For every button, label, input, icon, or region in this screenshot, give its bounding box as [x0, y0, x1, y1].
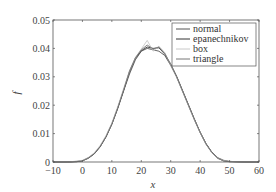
- y-tick-label: 0.04: [33, 43, 51, 54]
- x-tick-label: 40: [195, 165, 205, 176]
- x-tick-label: 30: [166, 165, 176, 176]
- x-tick-label: 20: [136, 165, 146, 176]
- y-tick-label: 0.01: [33, 128, 51, 139]
- y-tick-label: 0.03: [33, 71, 51, 82]
- y-tick-label: 0.05: [33, 15, 51, 26]
- x-tick-label: 10: [107, 165, 117, 176]
- y-tick-label: 0.02: [33, 100, 51, 111]
- legend: normalepanechnikovboxtriangle: [172, 23, 256, 66]
- x-tick-label: 0: [80, 165, 85, 176]
- x-tick-label: 50: [225, 165, 235, 176]
- y-tick-label: 0: [45, 157, 50, 168]
- y-axis-label: f: [10, 90, 22, 95]
- x-axis-label: x: [150, 178, 156, 190]
- kde-line-chart: −100102030405060 00.010.020.030.040.05 x…: [0, 0, 276, 192]
- legend-label: triangle: [193, 53, 224, 64]
- x-tick-label: 60: [254, 165, 264, 176]
